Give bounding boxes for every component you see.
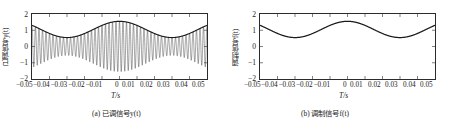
plot-area-b (259, 13, 436, 80)
y-tick-label-a-neg1: −1 (11, 59, 28, 67)
plot-svg-a (32, 14, 207, 79)
x-tick-label-a-9: 0.04 (175, 82, 188, 89)
x-tick-label-b-2: −0.03 (279, 82, 296, 89)
x-tick-label-b-9: 0.04 (403, 82, 416, 89)
x-axis-label-b: T/s (339, 92, 348, 100)
y-tick-marks-a (32, 30, 207, 63)
am-carrier-waveform (32, 21, 207, 71)
x-tick-label-a-5: 0 (115, 82, 119, 89)
x-tick-label-b-5: 0 (343, 82, 347, 89)
am-modulation-figure: 已调信号y(t) 2 1 0 −1 −2 (0, 0, 456, 134)
x-tick-label-b-1: −0.04 (261, 82, 278, 89)
x-tick-marks-a (50, 14, 190, 79)
x-tick-marks-b (278, 14, 418, 79)
x-tick-label-a-1: −0.04 (33, 82, 50, 89)
x-tick-label-b-8: 0.03 (385, 82, 398, 89)
x-tick-label-a-7: 0.02 (140, 82, 153, 89)
panel-b-caption: (b) 调制信号f(t) (301, 110, 349, 117)
x-tick-label-b-0: −0.05 (244, 82, 261, 89)
x-tick-label-a-8: 0.03 (157, 82, 170, 89)
x-axis-label-a: T/s (111, 92, 120, 100)
plot-svg-b (260, 14, 435, 79)
plot-area-a (31, 13, 208, 80)
x-tick-label-b-3: −0.02 (296, 82, 313, 89)
y-tick-label-a-0: 0 (14, 43, 28, 51)
x-tick-label-b-10: 0.05 (420, 82, 433, 89)
y-tick-label-b-0: 0 (242, 43, 256, 51)
x-tick-label-a-3: −0.02 (68, 82, 85, 89)
x-tick-label-a-10: 0.05 (192, 82, 205, 89)
panel-b: 调制信号f(t) 2 1 0 −1 −2 (228, 0, 456, 134)
x-tick-label-a-2: −0.03 (51, 82, 68, 89)
y-tick-label-b-1: 1 (242, 27, 256, 35)
modulating-signal-curve (260, 21, 435, 37)
y-axis-label-a: 已调信号y(t) (3, 14, 10, 80)
x-tick-label-b-4: −0.01 (314, 82, 331, 89)
y-tick-label-b-neg1: −1 (239, 59, 256, 67)
x-tick-label-a-6: 0.01 (122, 82, 135, 89)
y-tick-label-a-2: 2 (14, 11, 28, 19)
x-tick-label-a-0: −0.05 (16, 82, 33, 89)
y-tick-label-a-1: 1 (14, 27, 28, 35)
panel-a: 已调信号y(t) 2 1 0 −1 −2 (0, 0, 228, 134)
y-tick-marks-b (260, 30, 435, 63)
x-tick-label-b-7: 0.02 (368, 82, 381, 89)
y-axis-label-b: 调制信号f(t) (233, 14, 240, 80)
panel-a-caption: (a) 已调信号y(t) (92, 110, 141, 117)
am-envelope-curve (32, 21, 207, 37)
x-tick-label-b-6: 0.01 (350, 82, 363, 89)
y-tick-label-b-2: 2 (242, 11, 256, 19)
x-tick-label-a-4: −0.01 (86, 82, 103, 89)
